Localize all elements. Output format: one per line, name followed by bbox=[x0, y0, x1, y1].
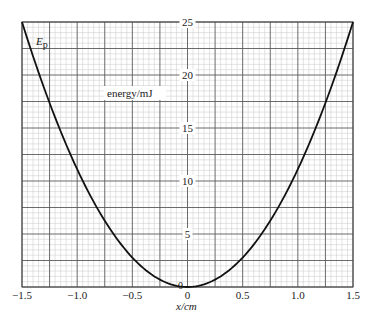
y-tick-label: 20 bbox=[182, 69, 194, 81]
x-tick-label: −1.0 bbox=[67, 289, 87, 301]
y-axis-label-group: energy/mJ bbox=[104, 86, 166, 100]
x-tick-label: −1.5 bbox=[12, 289, 32, 301]
y-tick-label: 25 bbox=[182, 16, 194, 28]
chart-canvas: 5101520250 −1.5−1.0−0.500.51.01.5 Ep ene… bbox=[0, 0, 367, 325]
y-axis-label: energy/mJ bbox=[107, 87, 153, 99]
y-tick-label: 5 bbox=[185, 228, 191, 240]
y-tick-label: 10 bbox=[182, 175, 194, 187]
x-tick-label: 0.5 bbox=[236, 289, 250, 301]
x-tick-label: −0.5 bbox=[122, 289, 142, 301]
potential-energy-chart: 5101520250 −1.5−1.0−0.500.51.01.5 Ep ene… bbox=[0, 0, 367, 325]
y-tick-label: 15 bbox=[182, 122, 194, 134]
x-axis-label: x/cm bbox=[175, 300, 197, 312]
curve-label-ep: Ep bbox=[35, 35, 48, 50]
x-tick-label: 1.5 bbox=[346, 289, 360, 301]
x-axis-label-group: x/cm bbox=[175, 300, 197, 312]
x-tick-label: 1.0 bbox=[291, 289, 305, 301]
